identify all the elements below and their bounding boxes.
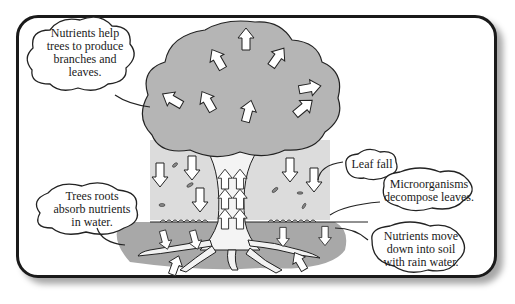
label-line: leaves. [38,66,132,79]
label-nutrients-help: Nutrients help trees to produce branches… [38,27,132,79]
label-roots-absorb: Trees roots absorb nutrients in water. [44,190,140,229]
diagram-stage: Nutrients help trees to produce branches… [0,0,515,304]
label-line: Leaf fall [348,158,396,171]
label-microorganisms: Microorganisms decompose leaves. [382,178,476,204]
label-nutrients-move: Nutrients move down into soil with rain … [374,230,468,269]
label-line: in water. [44,216,140,229]
label-line: with rain water. [374,256,468,269]
label-leaf-fall: Leaf fall [348,158,396,171]
label-line: decompose leaves. [382,191,476,204]
